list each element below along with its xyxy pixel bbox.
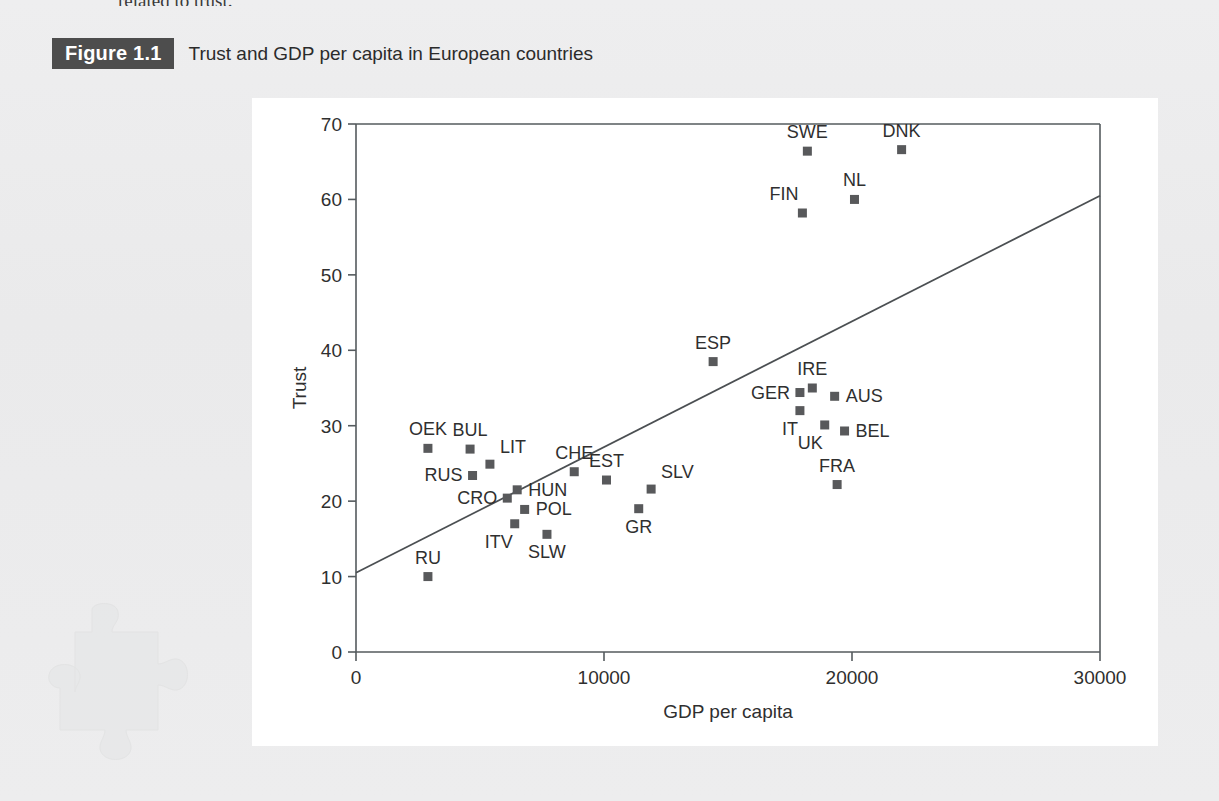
figure-panel: [252, 98, 1158, 746]
figure-number-badge: Figure 1.1: [52, 38, 174, 69]
figure-caption: Trust and GDP per capita in European cou…: [188, 43, 593, 65]
body-text-fragment: related to trust.: [118, 0, 233, 6]
figure-header: Figure 1.1 Trust and GDP per capita in E…: [52, 38, 593, 69]
puzzle-piece-icon: [48, 602, 198, 780]
